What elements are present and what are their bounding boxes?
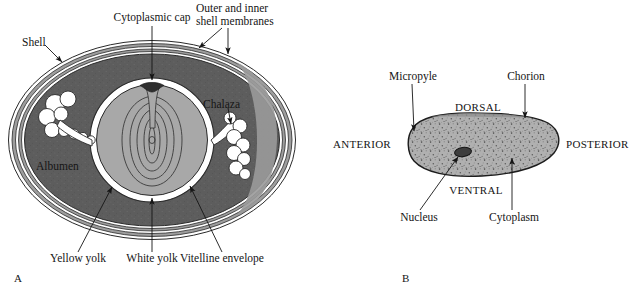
label-yellow-yolk: Yellow yolk	[36, 252, 120, 265]
panel-label-b: B	[402, 272, 409, 285]
label-micropyle: Micropyle	[378, 70, 448, 83]
bird-egg-diagram	[9, 26, 296, 252]
insect-egg-body	[408, 113, 559, 176]
label-shell-membranes-line1: Outer and inner	[196, 2, 268, 15]
label-vitelline-envelope: Vitelline envelope	[170, 252, 274, 265]
label-nucleus: Nucleus	[387, 211, 451, 224]
label-anterior: ANTERIOR	[333, 138, 391, 151]
label-ventral: VENTRAL	[438, 184, 514, 197]
label-shell-membranes-line2: shell membranes	[196, 15, 274, 28]
label-chorion: Chorion	[495, 70, 557, 83]
label-chalaza: Chalaza	[203, 98, 240, 111]
panel-label-a: A	[14, 272, 22, 285]
label-dorsal: DORSAL	[440, 101, 516, 114]
label-posterior: POSTERIOR	[566, 138, 629, 151]
label-albumen: Albumen	[36, 160, 79, 173]
label-cytoplasm: Cytoplasm	[478, 211, 550, 224]
label-shell: Shell	[22, 36, 46, 49]
